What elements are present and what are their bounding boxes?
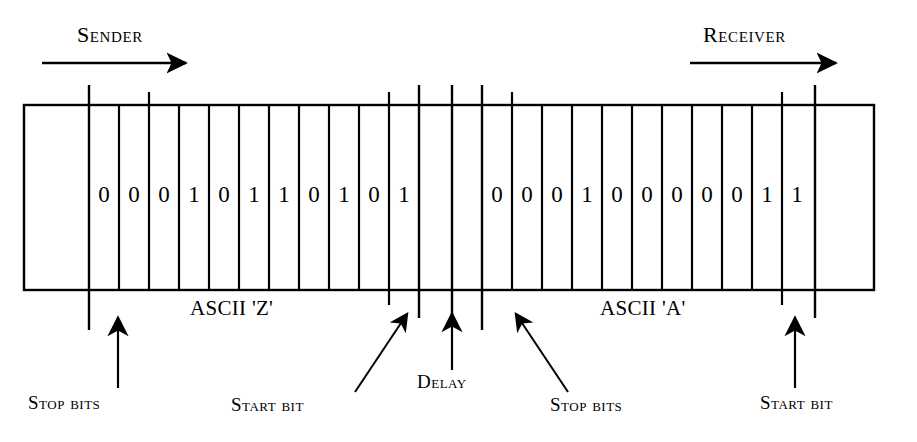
- ascii-z-caption: ASCII 'Z': [190, 296, 273, 321]
- stop-bits-right-label: Stop bits: [550, 394, 622, 416]
- bit-cell: 1: [752, 182, 782, 208]
- delay-label: Delay: [417, 371, 467, 393]
- bit-cell: 0: [359, 182, 389, 208]
- start-bit-right-label: Start bit: [760, 392, 833, 414]
- bit-cell: 1: [179, 182, 209, 208]
- bit-cell: 0: [119, 182, 149, 208]
- bit-cell: 0: [602, 182, 632, 208]
- start-bit-left-arrow: [355, 314, 407, 392]
- bit-cell: 0: [662, 182, 692, 208]
- receiver-label: Receiver: [703, 22, 786, 48]
- bit-cell: 0: [209, 182, 239, 208]
- ascii-a-caption: ASCII 'A': [600, 296, 686, 321]
- bit-cell: 1: [269, 182, 299, 208]
- bit-cell: 1: [389, 182, 419, 208]
- bit-cell: 0: [89, 182, 119, 208]
- bit-cell: 1: [782, 182, 812, 208]
- bit-cell: 0: [692, 182, 722, 208]
- bit-cell: 1: [572, 182, 602, 208]
- start-bit-left-label: Start bit: [231, 394, 304, 416]
- bit-cell: 0: [512, 182, 542, 208]
- bit-cell: 0: [149, 182, 179, 208]
- bit-cell: 0: [632, 182, 662, 208]
- bit-cell: 1: [239, 182, 269, 208]
- figure-canvas: Sender Receiver 0 0 0 1 0 1 1 0 1 0 1 0 …: [0, 0, 917, 442]
- bit-cell: 0: [722, 182, 752, 208]
- stop-bits-right-arrow: [516, 314, 568, 392]
- sender-label: Sender: [77, 22, 143, 48]
- bit-cell: 0: [299, 182, 329, 208]
- stop-bits-left-label: Stop bits: [28, 392, 100, 414]
- bit-cell: 0: [482, 182, 512, 208]
- bit-cell: 1: [329, 182, 359, 208]
- bit-cell: 0: [542, 182, 572, 208]
